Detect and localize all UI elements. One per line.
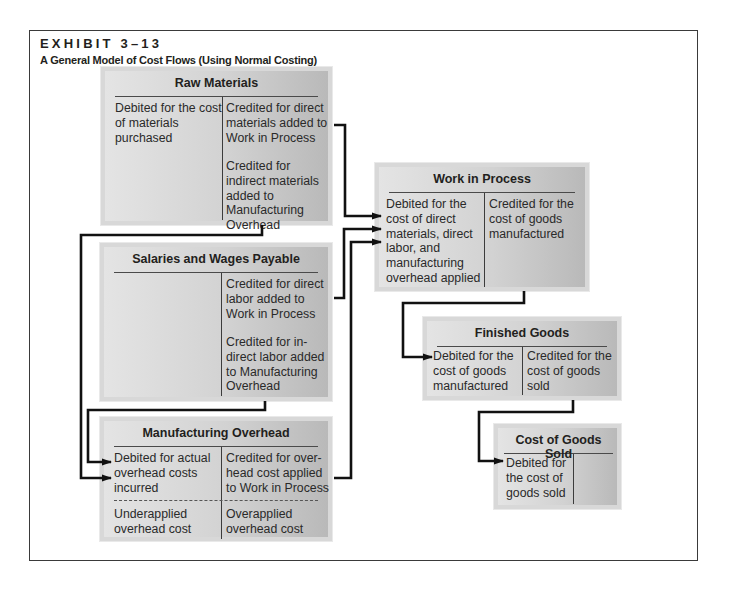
flow-arrow-fg-to-cogs	[479, 400, 573, 461]
flow-arrow-wip-to-fg	[403, 291, 524, 357]
flow-arrow-labor-to-moh	[88, 401, 265, 462]
flow-arrow-moh-to-wip	[334, 242, 381, 478]
flow-arrow-labor-to-wip	[334, 229, 381, 298]
flow-arrow-rm-to-moh	[81, 225, 262, 478]
flow-arrow-rm-to-wip	[334, 125, 381, 216]
cost-flow-connectors	[0, 0, 729, 590]
